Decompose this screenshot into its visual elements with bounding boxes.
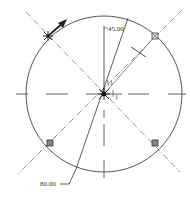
square-point-icon: [47, 140, 53, 146]
constraint-label-top: 1: [110, 80, 113, 86]
point-bottom-left[interactable]: [47, 140, 53, 146]
canvas-background: [0, 0, 190, 204]
point-bottom-right[interactable]: [152, 140, 158, 146]
asterisk-point-icon: [46, 34, 50, 38]
point-top-left[interactable]: [43, 31, 53, 41]
constraint-label-bottom: 1: [115, 94, 118, 100]
angle-dimension-label[interactable]: 45.00: [108, 25, 124, 33]
sketch-canvas[interactable]: 1 1 45.00 80.00: [0, 0, 190, 204]
diameter-dimension-label[interactable]: 80.00: [40, 180, 56, 188]
point-top-right[interactable]: [152, 33, 158, 39]
center-point-icon: [102, 92, 107, 97]
point-center[interactable]: [98, 88, 110, 100]
square-point-icon: [152, 140, 158, 146]
